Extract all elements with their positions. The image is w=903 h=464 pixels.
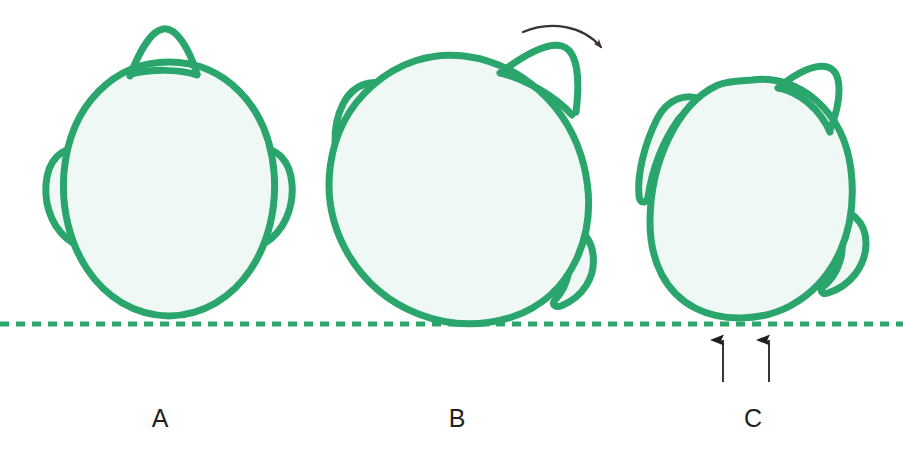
panel-c-head	[639, 66, 866, 382]
fetal-head-rotation-diagram	[0, 0, 903, 464]
panel-a-head	[46, 29, 292, 316]
panel-b-head	[329, 26, 601, 324]
panel-label-b: B	[427, 404, 487, 433]
panel-label-a: A	[130, 404, 190, 433]
figure-root: A B C	[0, 0, 903, 464]
panel-label-c: C	[723, 404, 783, 433]
panel-a-cranium	[63, 62, 274, 316]
